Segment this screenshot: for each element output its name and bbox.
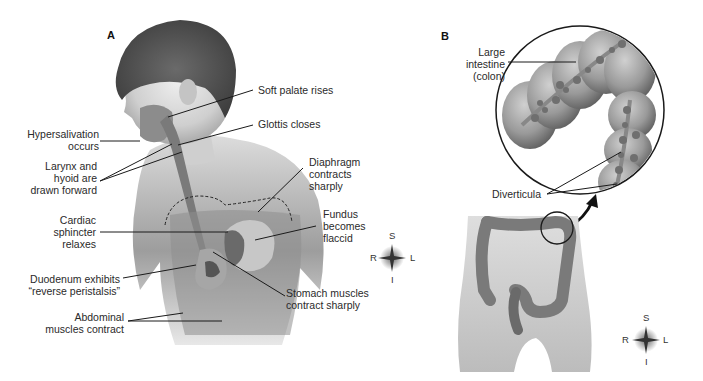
compass-a-left: L (410, 252, 415, 263)
figure-b-body (458, 212, 592, 372)
label-stomach-muscles: Stomach muscles contract sharply (286, 287, 369, 311)
compass-b-inferior: I (645, 356, 648, 367)
compass-b-graphic (632, 326, 660, 354)
label-larynx-hyoid: Larynx and hyoid are drawn forward (26, 160, 97, 196)
label-hypersalivation: Hypersalivation occurs (26, 128, 99, 152)
label-duodenum: Duodenum exhibits “reverse peristalsis” (22, 273, 120, 297)
compass-b-superior: S (643, 312, 649, 323)
compass-b-right: R (622, 334, 629, 345)
label-soft-palate: Soft palate rises (258, 84, 333, 96)
compass-a-right: R (370, 252, 377, 263)
label-glottis: Glottis closes (258, 118, 320, 130)
label-diaphragm: Diaphragm contracts sharply (309, 156, 360, 192)
compass-b-left: L (663, 334, 668, 345)
label-diverticula: Diverticula (492, 188, 541, 200)
compass-a-graphic (378, 244, 406, 272)
compass-a-superior: S (389, 230, 395, 241)
label-fundus: Fundus becomes flaccid (323, 208, 366, 244)
label-cardiac-sphincter: Cardiac sphincter relaxes (30, 214, 96, 250)
panel-b-letter: B (441, 30, 449, 42)
label-abdominal-muscles: Abdominal muscles contract (30, 311, 124, 335)
magnified-colon (496, 26, 664, 204)
panel-a-letter: A (107, 29, 115, 41)
compass-a-inferior: I (391, 274, 394, 285)
label-large-intestine: Large intestine (colon) (455, 46, 505, 82)
